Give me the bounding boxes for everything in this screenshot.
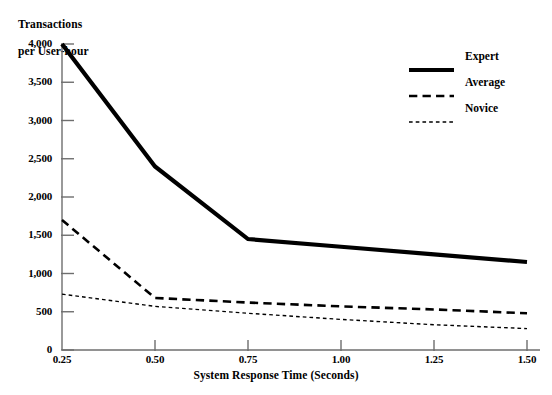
- legend-label: Novice: [465, 102, 498, 114]
- axes-layer: [62, 44, 540, 350]
- x-tick-label: 0.75: [218, 353, 278, 365]
- chart-figure: Transactions per User-hour 05001,0001,50…: [0, 0, 552, 395]
- y-tick-label: 1,500: [6, 228, 52, 240]
- y-tick-label: 3,500: [6, 75, 52, 87]
- y-tick-label: 2,000: [6, 190, 52, 202]
- y-tick-label: 4,000: [6, 37, 52, 49]
- legend-label: Expert: [465, 50, 499, 62]
- y-tick-label: 500: [6, 305, 52, 317]
- x-tick-label: 1.00: [311, 353, 371, 365]
- y-tick-label: 2,500: [6, 152, 52, 164]
- legend-swatch-expert-icon: [409, 59, 454, 65]
- y-tick-label: 3,000: [6, 114, 52, 126]
- x-tick-label: 0.25: [32, 353, 92, 365]
- series-layer: [62, 44, 527, 329]
- x-tick-label: 0.50: [125, 353, 185, 365]
- y-tick-marks: [61, 44, 74, 350]
- x-tick-label: 1.25: [404, 353, 464, 365]
- x-tick-label: 1.50: [497, 353, 552, 365]
- y-tick-label: 1,000: [6, 267, 52, 279]
- legend-label: Average: [465, 76, 505, 88]
- series-line-average: [62, 220, 527, 313]
- figure-caption: [0, 386, 552, 395]
- x-axis-title: System Response Time (Seconds): [0, 369, 552, 381]
- series-line-expert: [62, 44, 527, 262]
- legend-swatch-novice-icon: [409, 111, 454, 117]
- legend-swatch-average-icon: [409, 85, 454, 91]
